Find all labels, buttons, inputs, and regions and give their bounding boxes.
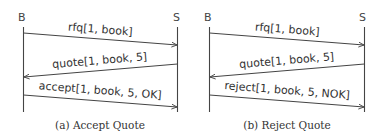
diagram-reject-quote: B S rfq[1, book] quote[1, book, 5] rejec… bbox=[204, 11, 366, 131]
message-label-rfq: rfq[1, book] bbox=[67, 20, 133, 38]
sequence-diagrams: B S rfq[1, book] quote[1, book, 5] accep… bbox=[0, 0, 382, 140]
party-b-label: B bbox=[18, 11, 26, 24]
message-label-reject: reject[1, book, 5, NOK] bbox=[224, 79, 350, 102]
diagram-accept-quote: B S rfq[1, book] quote[1, book, 5] accep… bbox=[18, 11, 180, 131]
party-b-label: B bbox=[204, 11, 212, 24]
message-label-accept: accept[1, book, 5, OK] bbox=[38, 79, 162, 102]
party-s-label: S bbox=[359, 11, 366, 24]
caption-accept-quote: (a) Accept Quote bbox=[55, 119, 145, 131]
message-label-rfq: rfq[1, book] bbox=[254, 20, 320, 38]
caption-reject-quote: (b) Reject Quote bbox=[243, 119, 330, 131]
party-s-label: S bbox=[173, 11, 180, 24]
